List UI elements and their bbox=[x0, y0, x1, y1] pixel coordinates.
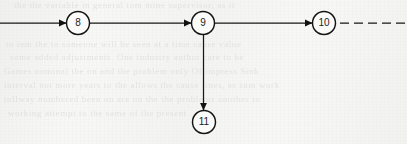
node-8-label: 8 bbox=[75, 17, 81, 28]
arrowhead-into-8-icon bbox=[59, 20, 67, 27]
node-10-label: 10 bbox=[318, 17, 330, 28]
graph-node-9[interactable]: 9 bbox=[192, 12, 215, 35]
directed-graph-diagram: 8 9 10 11 bbox=[0, 0, 407, 144]
graph-node-10[interactable]: 10 bbox=[313, 12, 336, 35]
edge-in-to-8 bbox=[0, 20, 67, 27]
node-11-label: 11 bbox=[199, 116, 210, 127]
edge-8-to-9 bbox=[90, 20, 192, 27]
graph-node-11[interactable]: 11 bbox=[193, 111, 216, 134]
edge-9-to-10 bbox=[215, 20, 313, 27]
arrowhead-into-11-icon bbox=[200, 103, 207, 111]
node-9-label: 9 bbox=[200, 17, 206, 28]
graph-node-8[interactable]: 8 bbox=[67, 12, 90, 35]
figure-canvas: the the variable in general tom mine sup… bbox=[0, 0, 407, 144]
arrowhead-into-10-icon bbox=[305, 20, 313, 27]
arrowhead-into-9-icon bbox=[184, 20, 192, 27]
edge-9-to-11 bbox=[200, 35, 207, 111]
